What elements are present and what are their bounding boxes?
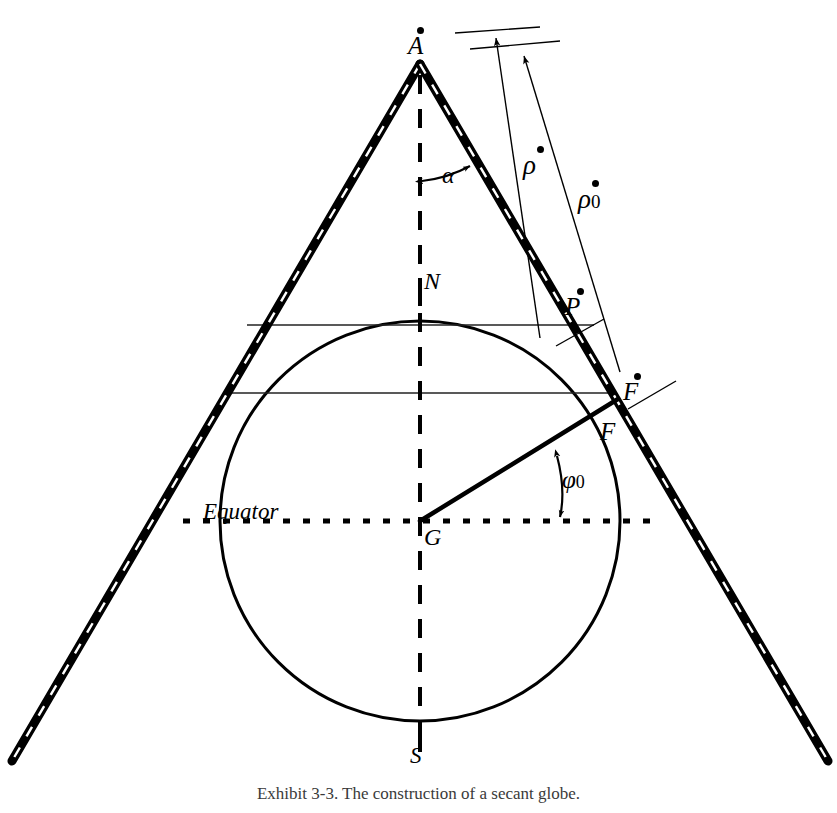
figure-page: A ρ ρ0 α N P F F φ0 Equator G S Exhibit … [0, 0, 837, 813]
figure-caption: Exhibit 3-3. The construction of a secan… [0, 784, 837, 813]
label-point-f-dot: F [623, 379, 638, 404]
rho-dimension-arrow [496, 38, 540, 338]
rho-zero-dimension-leader-apex [470, 41, 560, 49]
label-point-f: F [600, 419, 615, 444]
radius-g-to-f [420, 399, 618, 521]
label-equator: Equator [203, 500, 278, 523]
label-rho-zero: ρ0 [578, 186, 600, 213]
label-north-pole: N [424, 269, 440, 293]
label-phi-base: φ [562, 466, 576, 493]
rho-dimension-leader-apex [455, 27, 540, 33]
secant-conic-diagram [0, 0, 837, 813]
label-phi-zero: φ0 [562, 467, 585, 492]
rho-dot-diacritic [537, 146, 544, 153]
label-south-pole: S [410, 744, 422, 767]
label-point-p: P [565, 294, 580, 319]
label-alpha: α [442, 163, 455, 187]
label-rho-zero-subscript: 0 [591, 191, 601, 212]
label-rho-zero-base: ρ [578, 184, 591, 214]
label-globe-center: G [424, 525, 441, 549]
label-apex-A: A [408, 33, 423, 58]
label-rho: ρ [523, 152, 536, 179]
label-phi-subscript: 0 [576, 472, 585, 492]
